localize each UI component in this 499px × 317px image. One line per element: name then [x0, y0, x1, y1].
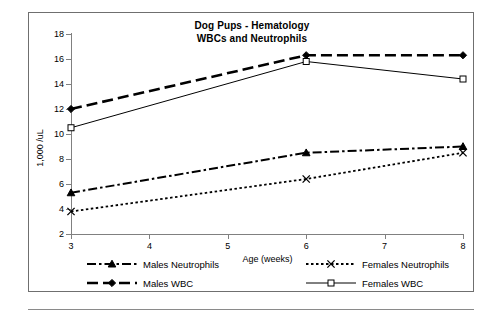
legend-marker	[108, 279, 115, 286]
chart-legend: Males NeutrophilsFemales NeutrophilsMale…	[29, 256, 475, 292]
legend-label: Males Neutrophils	[143, 259, 219, 270]
legend-item-males-wbc[interactable]: Males WBC	[85, 275, 193, 291]
series-females-wbc	[68, 59, 466, 131]
series-males-neutrophils	[67, 143, 467, 196]
legend-item-females-wbc[interactable]: Females WBC	[304, 275, 423, 291]
data-point	[67, 105, 74, 112]
data-point	[459, 149, 466, 156]
chart-plot-area	[29, 13, 475, 293]
data-point	[303, 52, 310, 59]
data-point	[459, 52, 466, 59]
series-males-wbc	[67, 52, 466, 113]
data-point	[68, 125, 74, 131]
legend-key-swatch	[85, 276, 139, 290]
chart-page: Dog Pups - Hematology WBCs and Neutrophi…	[0, 0, 499, 317]
legend-key-swatch	[85, 257, 139, 271]
data-point	[460, 76, 466, 82]
series-line	[71, 55, 463, 109]
chart-frame: Dog Pups - Hematology WBCs and Neutrophi…	[28, 12, 474, 292]
data-point	[303, 59, 309, 65]
legend-item-males-neutrophils[interactable]: Males Neutrophils	[85, 256, 219, 272]
data-point	[303, 175, 310, 182]
legend-label: Females WBC	[362, 278, 423, 289]
legend-key-swatch	[304, 257, 358, 271]
legend-label: Females Neutrophils	[362, 259, 449, 270]
legend-key-swatch	[304, 276, 358, 290]
page-divider	[28, 309, 474, 310]
series-line	[71, 147, 463, 193]
legend-item-females-neutrophils[interactable]: Females Neutrophils	[304, 256, 449, 272]
legend-marker	[328, 280, 334, 286]
series-line	[71, 62, 463, 128]
legend-label: Males WBC	[143, 278, 193, 289]
